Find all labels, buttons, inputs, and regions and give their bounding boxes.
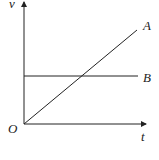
- line-a: [24, 30, 137, 124]
- y-axis-label: v: [9, 0, 15, 11]
- x-axis-label: t: [141, 129, 145, 144]
- line-a-label: A: [142, 18, 151, 33]
- v-t-diagram: v t O A B: [0, 0, 159, 160]
- origin-label: O: [8, 121, 18, 136]
- line-b-label: B: [143, 70, 151, 85]
